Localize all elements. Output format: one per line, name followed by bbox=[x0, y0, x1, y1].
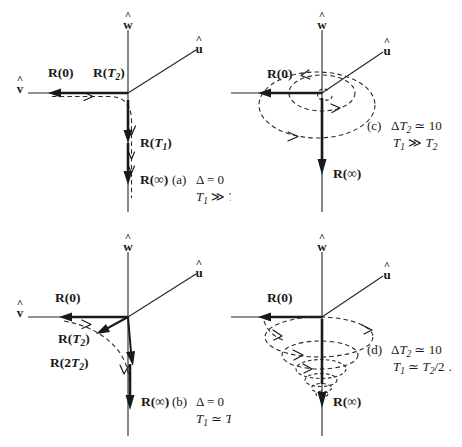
u-axis-label-c: u bbox=[383, 43, 390, 58]
figure-container: ^ w ^ u ^ v R(0) R(T2) R(T1) R(∞) (a) bbox=[0, 0, 462, 447]
precession-arrow-inner-top-c bbox=[301, 70, 310, 79]
precession-ellipse-outer-c bbox=[259, 72, 375, 138]
vector-rt2-label-b: R(T2) bbox=[58, 331, 90, 348]
w-axis-label-a: w bbox=[123, 17, 133, 32]
panel-c: ^ w ^ u ^ v R(0) R(∞) (c) ΔT2 ≃ 10 T1 ≫ … bbox=[231, 0, 462, 224]
panel-b-caption-line2: T1 ≃ T2/2 bbox=[196, 411, 231, 428]
vector-rinf-arrowhead-b bbox=[126, 395, 135, 410]
panel-c-caption-line1: ΔT2 ≃ 10 bbox=[391, 118, 442, 135]
w-axis-label-c: w bbox=[317, 17, 327, 32]
u-axis-b bbox=[128, 274, 196, 317]
vector-r0-label-d: R(0) bbox=[267, 290, 293, 305]
panel-c-caption-line2: T1 ≫ T2 bbox=[393, 135, 438, 152]
vector-rinf-arrowhead-c bbox=[318, 159, 327, 175]
vector-rinf-arrowhead-d bbox=[318, 392, 327, 408]
panel-d-caption-tag: (d) bbox=[367, 342, 382, 357]
panel-d-caption-line2: T1 ≃ T2/2. bbox=[393, 359, 452, 376]
trajectory-a bbox=[52, 97, 132, 199]
precession-arrow-outer-bottom-c bbox=[288, 132, 298, 141]
vector-rinf-label-c: R(∞) bbox=[333, 166, 361, 181]
traj-arrow-b-2 bbox=[120, 365, 129, 374]
vector-rinf-label-b: R(∞) bbox=[141, 394, 169, 409]
panel-a-caption-tag: (a) bbox=[172, 172, 186, 187]
panel-d-caption-line1: ΔT2 ≃ 10 bbox=[391, 342, 442, 359]
panel-b-caption-tag: (b) bbox=[172, 394, 187, 409]
vector-r2t2-arrowhead-b bbox=[126, 351, 135, 366]
u-axis-label-b: u bbox=[195, 265, 202, 280]
u-axis-label-a: u bbox=[195, 41, 202, 56]
u-axis-d bbox=[322, 276, 383, 317]
u-axis-a bbox=[128, 50, 196, 93]
panel-d: ^ w ^ u ^ v R(0) R(∞) (d) ΔT2 ≃ 10 T1 ≃ bbox=[231, 224, 462, 447]
panel-c-caption-tag: (c) bbox=[367, 118, 381, 133]
w-axis-label-b: w bbox=[123, 239, 133, 254]
vector-rt2-label-a: R(T2) bbox=[93, 65, 125, 82]
vector-r0-arrowhead-d bbox=[258, 313, 271, 322]
vector-r0-label-c: R(0) bbox=[267, 66, 293, 81]
vector-r0-arrowhead-c bbox=[258, 89, 271, 98]
vector-rt2-arrowhead-b bbox=[96, 324, 110, 334]
vector-r2t2-label-b: R(2T2) bbox=[50, 355, 89, 372]
panel-b-caption-line1: Δ = 0 bbox=[196, 394, 224, 409]
vector-r0-label-a: R(0) bbox=[48, 65, 74, 80]
vector-rinf-label-d: R(∞) bbox=[333, 394, 361, 409]
panel-a-caption-line1: Δ = 0 bbox=[196, 172, 224, 187]
vector-rt1-label-a: R(T1) bbox=[140, 135, 172, 152]
precession-arrow-inner-right-c bbox=[331, 104, 340, 113]
w-axis-label-d: w bbox=[317, 239, 327, 254]
panel-a: ^ w ^ u ^ v R(0) R(T2) R(T1) R(∞) (a) bbox=[0, 0, 231, 224]
vector-rinf-label-a: R(∞) bbox=[140, 172, 168, 187]
panel-a-caption-line2: T1 ≫ T2 bbox=[196, 189, 231, 206]
v-axis-label-b: v bbox=[17, 305, 24, 320]
vector-r0-arrowhead-b bbox=[59, 313, 72, 322]
v-axis-label-a: v bbox=[17, 81, 24, 96]
vector-rt2-b bbox=[106, 317, 128, 329]
u-axis-label-d: u bbox=[383, 267, 390, 282]
cone-arrow-right-d bbox=[362, 325, 372, 334]
panel-b: ^ w ^ u ^ v R(0) R(T2) R(2T2) R(∞) (b) Δ… bbox=[0, 224, 231, 447]
vector-r0-label-b: R(0) bbox=[55, 290, 81, 305]
